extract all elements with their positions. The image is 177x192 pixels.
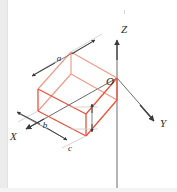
- dimension-b-extension-upper: [18, 111, 38, 122]
- dimension-b-arrow-start: [17, 112, 40, 124]
- figure-container: a b c Z Y X O: [0, 0, 177, 192]
- origin-label: O: [106, 75, 114, 87]
- dimension-b-arrow-end: [47, 128, 67, 140]
- dimension-b-extension-lower: [62, 136, 86, 148]
- z-axis-label: Z: [121, 23, 128, 35]
- dimension-c-label: c: [68, 143, 72, 153]
- y-axis-label: Y: [160, 117, 168, 129]
- y-axis-arrow: [140, 105, 154, 121]
- dimension-a-arrow-end: [72, 40, 95, 54]
- x-axis-arrow: [26, 119, 44, 129]
- stray-mark: [124, 10, 125, 14]
- dimension-a-label: a: [57, 53, 62, 63]
- cuboid-coordinate-diagram: a b c Z Y X O: [0, 0, 177, 192]
- x-axis-label: X: [9, 130, 18, 142]
- dimension-a-extension-right: [71, 34, 102, 52]
- dimension-b-label: b: [43, 120, 48, 130]
